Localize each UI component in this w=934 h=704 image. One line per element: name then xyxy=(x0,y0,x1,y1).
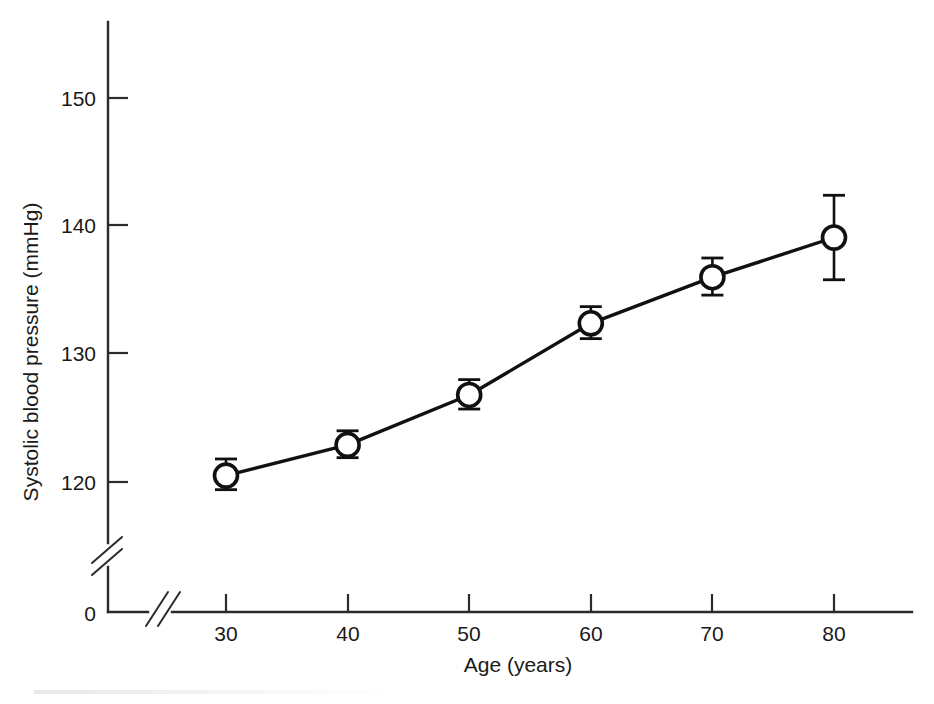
line-chart: 150 140 130 120 0 30 40 50 60 70 80 Age … xyxy=(0,0,934,704)
x-axis-break-icon xyxy=(146,592,180,626)
y-tick-label-0: 0 xyxy=(84,602,96,625)
x-axis-ticks xyxy=(226,594,834,612)
data-point-age-30 xyxy=(215,459,238,490)
data-point-age-80 xyxy=(823,195,846,279)
x-tick-label-50: 50 xyxy=(457,622,480,645)
data-point-age-60 xyxy=(579,307,602,339)
y-axis-title: Systolic blood pressure (mmHg) xyxy=(19,203,42,502)
y-tick-label-130: 130 xyxy=(61,342,96,365)
x-tick-label-60: 60 xyxy=(579,622,602,645)
x-tick-label-40: 40 xyxy=(336,622,359,645)
y-tick-label-120: 120 xyxy=(61,471,96,494)
marker-open-circle xyxy=(215,464,238,487)
marker-open-circle xyxy=(701,266,724,289)
marker-open-circle xyxy=(336,433,359,456)
marker-open-circle xyxy=(823,226,846,249)
x-tick-label-30: 30 xyxy=(214,622,237,645)
x-tick-label-70: 70 xyxy=(700,622,723,645)
series-line-systolic xyxy=(226,238,834,476)
data-point-age-40 xyxy=(336,431,359,458)
marker-open-circle xyxy=(579,312,602,335)
y-tick-label-140: 140 xyxy=(61,214,96,237)
series-points-group xyxy=(215,195,846,489)
x-tick-label-80: 80 xyxy=(822,622,845,645)
data-point-age-50 xyxy=(458,380,481,409)
figure-canvas: 150 140 130 120 0 30 40 50 60 70 80 Age … xyxy=(0,0,934,704)
y-tick-label-150: 150 xyxy=(61,87,96,110)
x-axis-title: Age (years) xyxy=(464,653,573,676)
y-axis-ticks xyxy=(108,98,128,482)
data-point-age-70 xyxy=(701,258,724,295)
marker-open-circle xyxy=(458,383,481,406)
